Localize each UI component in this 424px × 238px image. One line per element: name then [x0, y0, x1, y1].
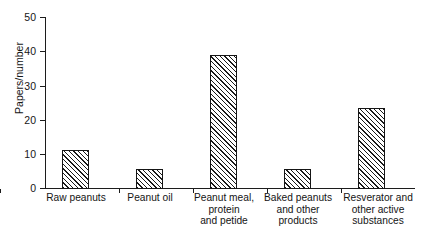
- y-tick-label-30: 30: [4, 81, 36, 91]
- x-category-label-peanut-oil: Peanut oil: [112, 192, 188, 204]
- y-tick-40: [40, 51, 45, 52]
- bar-chart: Papers/number 50 40 30 20 10 0 Raw peanu…: [0, 0, 424, 238]
- y-tick-10: [40, 154, 45, 155]
- y-axis-title: Papers/number: [13, 29, 25, 127]
- bar-baked-peanuts: [284, 169, 311, 189]
- y-tick-label-0: 0: [4, 183, 36, 193]
- y-tick-50: [40, 17, 45, 18]
- bar-peanut-oil: [136, 169, 163, 189]
- x-category-label-raw-peanuts: Raw peanuts: [36, 192, 116, 204]
- bar-peanut-meal: [210, 55, 237, 189]
- y-tick-label-20: 20: [4, 115, 36, 125]
- bar-resverator: [358, 108, 385, 189]
- y-tick-30: [40, 86, 45, 87]
- x-tick-2: [0, 189, 1, 193]
- y-tick-label-50: 50: [4, 12, 36, 22]
- bar-raw-peanuts: [62, 150, 89, 189]
- y-tick-label-10: 10: [4, 149, 36, 159]
- x-category-label-baked-peanuts: Baked peanuts and other products: [257, 192, 339, 227]
- y-tick-20: [40, 120, 45, 121]
- y-axis-line: [45, 17, 46, 188]
- y-tick-label-40: 40: [4, 46, 36, 56]
- x-category-label-resverator: Resverator and other active substances: [334, 192, 422, 227]
- x-category-label-peanut-meal: Peanut meal, protein and petide: [184, 192, 264, 227]
